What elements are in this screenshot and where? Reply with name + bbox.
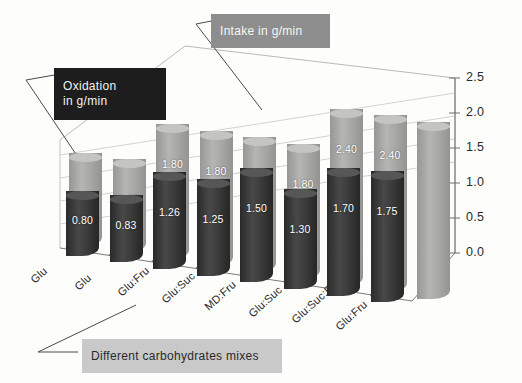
bar-value-label: 1.30 — [284, 223, 317, 235]
bar-value-label: 0.80 — [66, 214, 99, 226]
cylinder-body — [371, 171, 404, 303]
bar-value-label: 0.83 — [110, 219, 143, 231]
bar-oxidation-4: 1.50 — [240, 168, 273, 282]
cylinder-top — [284, 189, 317, 198]
cylinder-body — [417, 122, 450, 299]
cylinder-top — [69, 153, 102, 162]
bar-value-label: 1.70 — [327, 202, 360, 214]
x-category-label-0: Glu — [28, 265, 49, 286]
bar-oxidation-6: 1.70 — [327, 168, 360, 296]
cylinder-top — [371, 171, 404, 180]
cylinder-top — [153, 172, 186, 181]
bar-value-label: 2.40 — [330, 143, 363, 155]
cylinder-top — [66, 191, 99, 200]
x-category-label-3: Glu:Suc — [158, 270, 196, 306]
bar-oxidation-1: 0.83 — [110, 195, 143, 262]
bar-value-label: 1.50 — [240, 202, 273, 214]
callout-xaxis: Different carbohydrates mixes — [82, 339, 282, 373]
cylinder-body — [153, 172, 186, 269]
bar-value-label: 1.80 — [156, 158, 189, 170]
bar-oxidation-5: 1.30 — [284, 189, 317, 289]
bar-oxidation-0: 0.80 — [66, 191, 99, 256]
bar-oxidation-7: 1.75 — [371, 171, 404, 303]
cylinder-top — [327, 168, 360, 177]
cylinder-top — [113, 159, 146, 168]
x-category-label-2: Glu:Fru — [115, 264, 151, 298]
bar-value-label: 1.26 — [153, 206, 186, 218]
x-category-label-1: Glu — [71, 271, 92, 292]
x-category-label-7: Glu:Fru — [332, 298, 368, 332]
cylinder-body — [197, 179, 230, 276]
callout-intake: Intake in g/min — [211, 14, 330, 48]
bar-value-label: 2.40 — [374, 149, 407, 161]
bar-value-label: 1.80 — [200, 165, 233, 177]
cylinder-body — [284, 189, 317, 289]
cylinder-top — [200, 131, 233, 140]
bar-value-label: 1.75 — [371, 205, 404, 217]
bar-oxidation-2: 1.26 — [153, 172, 186, 269]
bar-value-label: 1.25 — [197, 213, 230, 225]
cylinder-top — [156, 124, 189, 133]
cylinder-body — [240, 168, 273, 282]
cylinder-top — [287, 144, 320, 153]
bar-intake-trailing — [417, 122, 450, 299]
x-category-label-5: Glu:Suc — [245, 283, 283, 319]
cylinder-body — [327, 168, 360, 296]
cylinder-top — [197, 179, 230, 188]
cylinder-top — [110, 195, 143, 204]
x-category-label-4: MD:Fru — [202, 278, 238, 312]
callout-oxidation: Oxidation in g/min — [54, 68, 166, 120]
bar-oxidation-3: 1.25 — [197, 179, 230, 276]
cylinder-top — [330, 109, 363, 118]
chart-canvas: 1.201.801.801.81.802.402.400.800.831.261… — [0, 0, 522, 383]
